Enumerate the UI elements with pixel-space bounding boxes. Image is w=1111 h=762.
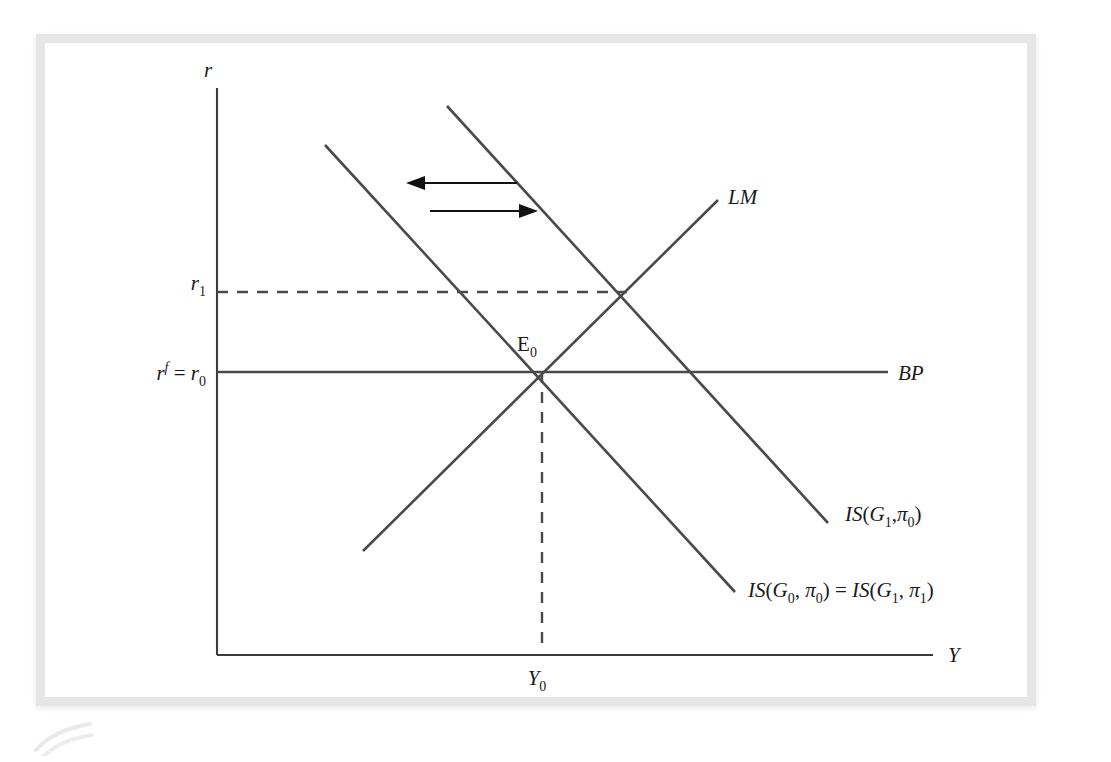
is-upper-pi-sub: 0	[907, 515, 914, 530]
is-lower-open: (	[766, 578, 773, 602]
is-lower-curve-label: IS(G0, π0) = IS(G1, π1)	[747, 578, 934, 606]
is-lower-open2: (	[870, 578, 877, 602]
guide-lines-group	[217, 292, 627, 648]
y0-tick-label: Y0	[528, 666, 547, 694]
is-lower-close: )	[823, 578, 830, 602]
is-lower-pi2-sub: 1	[920, 591, 927, 606]
is-lower-pi-sub: 0	[816, 591, 823, 606]
r1-tick-label: r1	[191, 271, 206, 299]
y-axis-label: r	[204, 58, 213, 82]
is-lower-g: G	[773, 578, 788, 602]
is-upper-curve	[447, 106, 828, 523]
is-lower-comma2: ,	[899, 578, 910, 602]
r0-equals: =	[168, 361, 190, 385]
r0-sub: 0	[199, 374, 206, 389]
corner-swoosh-icon	[30, 716, 100, 756]
r0-tick-label: rf = r0	[156, 360, 206, 389]
is-lower-equals: =	[830, 578, 852, 602]
r1-sub: 1	[199, 284, 206, 299]
lm-curve	[363, 200, 718, 551]
is-upper-pi: π	[897, 502, 908, 526]
curves-group	[217, 106, 888, 592]
is-lm-bp-chart: r Y	[0, 0, 1111, 762]
figure-page: r Y	[0, 0, 1111, 762]
is-lower-comma: ,	[795, 578, 806, 602]
e0-base: E	[517, 332, 530, 356]
is-lower-is2: IS	[851, 578, 870, 602]
arrow-right-icon	[430, 204, 538, 218]
is-lower-g-sub: 0	[788, 591, 795, 606]
arrow-left-icon	[406, 176, 517, 190]
is-upper-g-sub: 1	[885, 515, 892, 530]
e0-sub: 0	[530, 345, 537, 360]
is-upper-is: IS	[844, 502, 863, 526]
is-upper-open: (	[863, 502, 870, 526]
bp-curve-label: BP	[898, 361, 924, 385]
is-upper-g: G	[870, 502, 885, 526]
lm-curve-label: LM	[727, 185, 759, 209]
is-lower-g2-sub: 1	[892, 591, 899, 606]
e0-point-label: E0	[517, 332, 537, 360]
x-axis-label: Y	[948, 643, 962, 667]
is-upper-close: )	[914, 502, 921, 526]
is-lower-close2: )	[927, 578, 934, 602]
is-lower-is: IS	[747, 578, 766, 602]
y0-sub: 0	[539, 679, 546, 694]
is-lower-pi: π	[805, 578, 816, 602]
is-lower-pi2: π	[909, 578, 920, 602]
is-upper-curve-label: IS(G1,π0)	[844, 502, 921, 530]
is-lower-g2: G	[877, 578, 892, 602]
